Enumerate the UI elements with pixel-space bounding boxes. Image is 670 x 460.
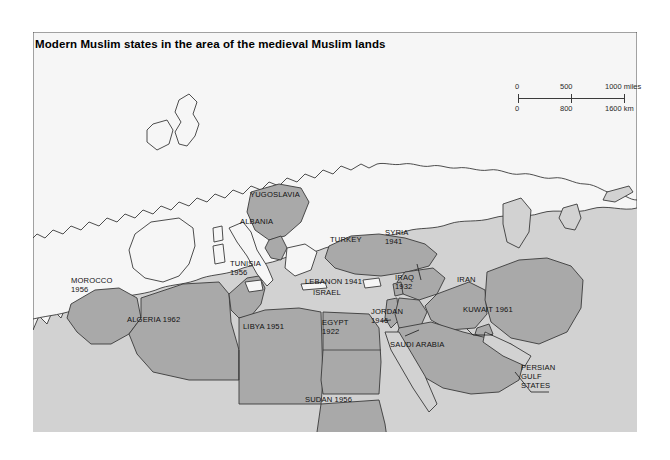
- map-label-syria: SYRIA 1941: [385, 228, 409, 246]
- map-label-israel: ISRAEL: [313, 288, 341, 297]
- map-label-lebanon: LEBANON 1941: [305, 277, 362, 286]
- scale-km-start: 0: [515, 104, 519, 113]
- map-screenshot: .land { fill:#f6f6f6; stroke:#3a3a3a; st…: [0, 0, 670, 460]
- scale-tick-start: [518, 94, 519, 103]
- map-label-jordan: JORDAN 1946: [371, 307, 403, 325]
- page-title: Modern Muslim states in the area of the …: [35, 38, 386, 50]
- map-label-turkey: TURKEY: [330, 235, 362, 244]
- map-label-albania: ALBANIA: [240, 217, 273, 226]
- map-label-morocco: MOROCCO 1956: [71, 276, 113, 294]
- map-label-kuwait: KUWAIT 1961: [463, 305, 513, 314]
- scale-km-mid: 800: [560, 104, 573, 113]
- map-label-iran: IRAN: [457, 275, 476, 284]
- map-label-tunisia: TUNISIA 1956: [230, 259, 261, 277]
- scale-miles-mid: 500: [560, 82, 573, 91]
- map-label-egypt: EGYPT 1922: [322, 318, 349, 336]
- scale-tick-mid: [571, 94, 572, 103]
- scale-tick-end: [624, 94, 625, 103]
- scale-miles-start: 0: [515, 82, 519, 91]
- scale-km-end: 1600 km: [605, 104, 634, 113]
- map-label-saudi-arabia: SAUDI ARABIA: [390, 340, 445, 349]
- scale-bar: 0 500 1000 miles 0 800 1600 km: [510, 78, 632, 122]
- map-label-sudan: SUDAN 1956: [305, 395, 352, 404]
- scale-miles-end: 1000 miles: [605, 82, 641, 91]
- map-label-algeria: ALGERIA 1962: [127, 315, 180, 324]
- map-label-persian-gulf-states: PERSIAN GULF STATES: [521, 363, 555, 391]
- map-label-iraq: IRAQ 1932: [395, 273, 414, 291]
- map-label-yugoslavia: YUGOSLAVIA: [250, 190, 300, 199]
- map-label-libya: LIBYA 1951: [243, 322, 284, 331]
